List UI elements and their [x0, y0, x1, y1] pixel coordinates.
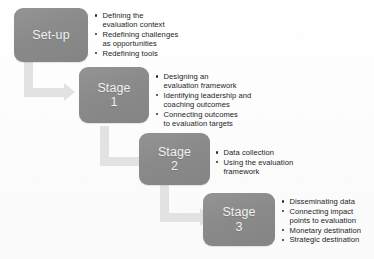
node-stage-3-label: Stage 3	[222, 205, 255, 234]
list-item: Redefining tools	[94, 49, 186, 58]
list-item: Disseminating data	[281, 197, 373, 206]
bullets-stage-3: Disseminating data Connecting impact poi…	[281, 197, 373, 245]
list-item: Defining the evaluation context	[94, 11, 186, 29]
node-set-up-label: Set-up	[32, 28, 69, 43]
node-stage-2[interactable]: Stage 2	[139, 133, 210, 185]
bullets-stage-2: Data collection Using the evaluation fra…	[215, 148, 319, 177]
arrow-shaft	[24, 88, 65, 97]
list-item: Designing an evaluation framework	[155, 72, 265, 90]
list-item: Redefining challenges as opportunities	[94, 30, 186, 48]
arrow-shaft	[160, 213, 201, 222]
flow-diagram: Set-up Defining the evaluation context R…	[0, 0, 374, 259]
node-set-up[interactable]: Set-up	[14, 8, 88, 62]
list-item: Connecting outcomes to evaluation target…	[155, 110, 265, 128]
list-item: Data collection	[215, 148, 319, 157]
node-stage-1-label: Stage 1	[97, 81, 130, 110]
list-item: Identifying leadership and coaching outc…	[155, 91, 265, 109]
bullets-set-up: Defining the evaluation context Redefini…	[94, 11, 186, 59]
node-stage-2-label: Stage 2	[158, 145, 191, 174]
list-item: Monetary destination	[281, 226, 373, 235]
bullets-stage-1: Designing an evaluation framework Identi…	[155, 72, 265, 129]
list-item: Using the evaluation framework	[215, 158, 319, 176]
list-item: Connecting impact points to evaluation	[281, 207, 373, 225]
node-stage-3[interactable]: Stage 3	[203, 193, 275, 246]
list-item: Strategic destination	[281, 235, 373, 244]
arrow-shaft	[100, 157, 141, 166]
node-stage-1[interactable]: Stage 1	[79, 67, 149, 123]
arrow-head-icon	[64, 83, 75, 101]
